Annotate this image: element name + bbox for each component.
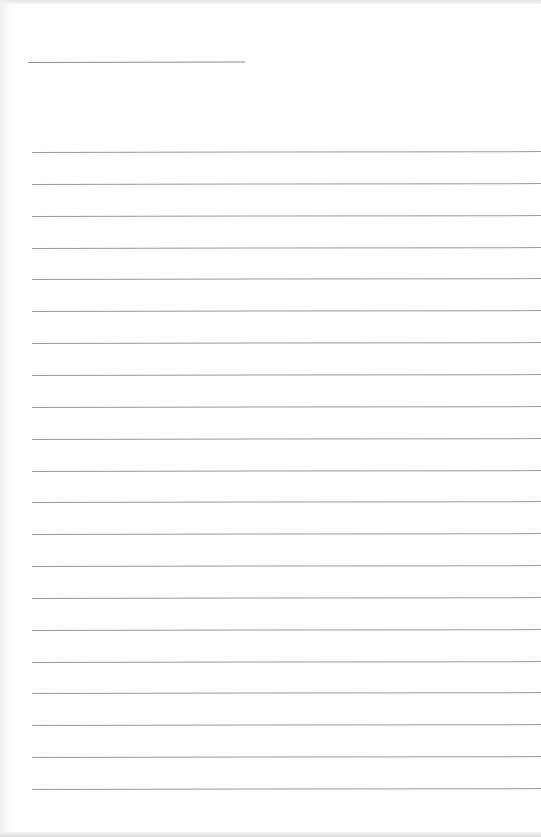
- ruled-line: [32, 724, 541, 726]
- ruled-line: [32, 788, 541, 790]
- ruled-line: [32, 565, 541, 567]
- ruled-line: [32, 310, 541, 312]
- ruled-line: [32, 247, 541, 249]
- ruled-line: [32, 406, 541, 408]
- ruled-line: [32, 374, 541, 376]
- ruled-line: [32, 692, 541, 694]
- scan-edge-left: [0, 0, 10, 837]
- ruled-line: [32, 438, 541, 440]
- ruled-line: [32, 533, 541, 535]
- ruled-line: [32, 151, 541, 153]
- lined-paper-page: [0, 0, 541, 837]
- ruled-line: [32, 342, 541, 344]
- scan-edge-top: [0, 0, 541, 4]
- title-line: [28, 62, 245, 63]
- ruled-line: [32, 183, 541, 185]
- ruled-line: [32, 278, 541, 280]
- ruled-line: [32, 470, 541, 472]
- ruled-line: [32, 661, 541, 663]
- ruled-line: [32, 629, 541, 631]
- ruled-line: [32, 215, 541, 217]
- scan-edge-bottom: [0, 832, 541, 837]
- ruled-line: [32, 501, 541, 503]
- ruled-line: [32, 756, 541, 758]
- ruled-line: [32, 597, 541, 599]
